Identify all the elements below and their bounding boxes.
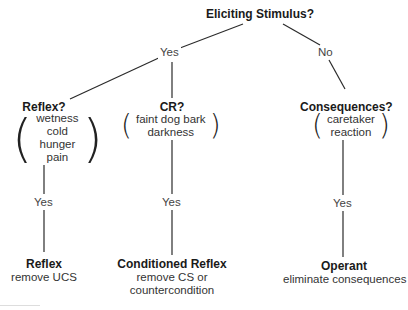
outcome-cr-title: Conditioned Reflex: [117, 258, 227, 271]
root-question: Eliciting Stimulus?: [205, 8, 315, 21]
stimulus-item: darkness: [136, 126, 206, 139]
outcome-operant: Operant eliminate consequences: [283, 260, 405, 286]
stimulus-item: pain: [36, 151, 78, 164]
outcome-cr-action-2: countercondition: [117, 284, 227, 297]
edge-root-to-no: [283, 24, 320, 45]
outcome-operant-title: Operant: [283, 260, 405, 273]
edge-label-reflex-yes: Yes: [32, 196, 55, 209]
scan-artifact-line: [0, 305, 40, 306]
stimulus-item: cold: [36, 125, 78, 138]
left-paren: (: [312, 112, 323, 140]
consequences-list: caretaker reaction: [323, 113, 379, 139]
outcome-cr-action-1: remove CS or: [117, 271, 227, 284]
cr-stimuli-group: ( faint dog bark darkness ): [121, 112, 221, 140]
edge-label-cons-yes: Yes: [331, 197, 354, 210]
consequence-item: reaction: [327, 126, 375, 139]
edge-yes-to-reflex: [70, 56, 163, 99]
reflex-stimuli-group: ( wetness cold hunger pain ): [12, 112, 103, 164]
stimulus-item: hunger: [36, 138, 78, 151]
left-paren: (: [12, 112, 32, 164]
consequence-item: caretaker: [327, 113, 375, 126]
edge-label-cr-yes: Yes: [160, 196, 183, 209]
left-paren: (: [121, 112, 132, 140]
right-paren: ): [210, 112, 221, 140]
consequences-group: ( caretaker reaction ): [312, 112, 390, 140]
outcome-conditioned-reflex: Conditioned Reflex remove CS or counterc…: [117, 258, 227, 297]
cr-stimuli-list: faint dog bark darkness: [132, 113, 210, 139]
outcome-reflex: Reflex remove UCS: [4, 258, 84, 284]
stimulus-item: wetness: [36, 112, 78, 125]
edge-no-to-consequences: [329, 60, 345, 89]
outcome-operant-action: eliminate consequences: [283, 273, 405, 286]
edge-root-to-yes: [180, 24, 243, 48]
stimulus-item: faint dog bark: [136, 113, 206, 126]
right-paren: ): [82, 112, 102, 164]
edge-label-root-yes: Yes: [158, 46, 181, 59]
right-paren: ): [379, 112, 390, 140]
reflex-stimuli-list: wetness cold hunger pain: [32, 112, 82, 164]
outcome-reflex-action: remove UCS: [4, 271, 84, 284]
outcome-reflex-title: Reflex: [4, 258, 84, 271]
edge-label-root-no: No: [316, 46, 335, 59]
